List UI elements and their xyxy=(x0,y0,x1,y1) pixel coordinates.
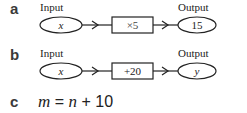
equation-rest: + 10 xyxy=(77,93,113,110)
diagram-b: x +20 y xyxy=(40,63,216,79)
equation-equals: = xyxy=(50,93,68,110)
part-label-c: c xyxy=(10,94,18,109)
operation-b: +20 xyxy=(124,65,142,77)
equation-lhs: m xyxy=(38,92,50,111)
operation-a: ×5 xyxy=(127,19,139,31)
equation: m = n + 10 xyxy=(38,93,113,110)
output-value-a: 15 xyxy=(192,19,204,31)
input-value-a: x xyxy=(58,19,64,31)
diagram-a: x ×5 15 xyxy=(40,17,216,33)
output-value-b: y xyxy=(194,65,200,77)
input-value-b: x xyxy=(58,65,64,77)
equation-variable: n xyxy=(69,92,78,111)
